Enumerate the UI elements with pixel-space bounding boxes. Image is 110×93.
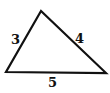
side-label-right: 4: [75, 32, 84, 45]
side-label-bottom: 5: [48, 76, 57, 89]
side-label-left: 3: [11, 33, 20, 46]
